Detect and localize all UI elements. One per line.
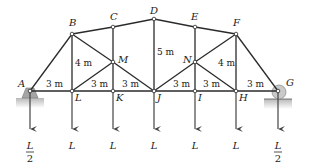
node-c [111,25,115,29]
node-label-d: D [149,5,158,16]
node-label-c: C [110,11,118,22]
load-label-g: L [274,140,282,151]
node-label-f: F [232,17,241,28]
node-m [111,60,115,64]
node-k [111,89,115,93]
load-label-k: L [109,140,117,151]
node-label-k: K [115,92,124,103]
node-l [70,89,74,93]
node-h [234,89,238,93]
load-label-h: L [232,140,240,151]
node-g [276,89,280,93]
node-label-h: H [238,92,248,103]
member-cd [113,19,154,27]
dimension-label: 3 m [247,79,265,89]
node-label-n: N [182,54,193,65]
node-label-l: L [74,92,82,103]
dimension-label: 4 m [75,58,93,68]
dimension-label: 5 m [157,47,175,57]
dimension-label: 3 m [46,79,64,89]
dimension-label: 3 m [122,79,140,89]
node-label-e: E [190,11,199,22]
node-label-m: M [117,54,129,65]
member-bc [72,27,113,34]
load-label-denominator: 2 [27,153,33,163]
node-label-b: B [68,17,76,28]
truss-canvas: L2LLLLLL2 ALKJIHGBCDEFMN 3 m3 m3 m3 m3 m… [0,0,309,163]
node-b [70,32,74,36]
dimension-label: 3 m [91,79,109,89]
node-f [234,32,238,36]
member-de [154,19,195,27]
dimension-label: 4 m [218,58,236,68]
node-d [152,17,156,21]
node-n [193,60,197,64]
node-e [193,25,197,29]
node-label-j: J [155,92,162,103]
load-label-l: L [68,140,76,151]
node-label-i: I [197,92,203,103]
dimension-label: 3 m [173,79,191,89]
load-label-i: L [191,140,199,151]
dimension-labels: 3 m3 m3 m3 m3 m3 m4 m5 m4 m [46,47,265,89]
dimension-label: 3 m [203,79,221,89]
member-ef [195,27,236,34]
node-a [28,89,32,93]
load-label-j: L [150,140,158,151]
node-label-g: G [286,77,294,88]
truss-members [30,19,278,91]
load-label-a: L [26,140,34,151]
truss-diagram: L2LLLLLL2 ALKJIHGBCDEFMN 3 m3 m3 m3 m3 m… [0,0,309,163]
node-i [193,89,197,93]
node-label-a: A [17,78,25,89]
node-j [152,89,156,93]
load-label-denominator: 2 [275,153,281,163]
